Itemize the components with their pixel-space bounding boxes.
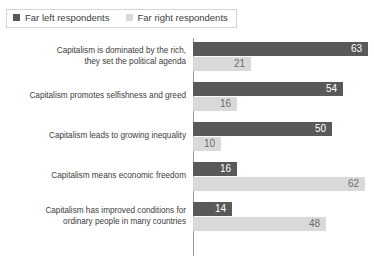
- bar[interactable]: [193, 217, 326, 231]
- bar-value-label: 54: [326, 82, 337, 96]
- category-label: Capitalism means economic freedom: [0, 171, 186, 182]
- legend-label: Far right respondents: [138, 13, 228, 23]
- bar-row: 50: [193, 122, 332, 136]
- bar[interactable]: [193, 202, 232, 216]
- legend-entry-far-left: Far left respondents: [13, 13, 110, 23]
- chart-legend: Far left respondents Far right responden…: [6, 9, 237, 28]
- legend-label: Far left respondents: [25, 13, 110, 23]
- bar-group: Capitalism leads to growing inequality50…: [0, 120, 374, 160]
- bar-value-label: 62: [348, 177, 359, 191]
- bar-row: 63: [193, 42, 368, 56]
- category-label: Capitalism has improved conditions foror…: [0, 206, 186, 227]
- bar-value-label: 50: [315, 122, 326, 136]
- bar-group: Capitalism means economic freedom1662: [0, 160, 374, 200]
- bar-value-label: 63: [351, 42, 362, 56]
- bar[interactable]: [193, 82, 343, 96]
- category-label: Capitalism leads to growing inequality: [0, 131, 186, 142]
- category-label-line: they set the political agenda: [0, 57, 186, 68]
- bar[interactable]: [193, 177, 365, 191]
- bar-row: 54: [193, 82, 343, 96]
- category-label: Capitalism is dominated by the rich,they…: [0, 46, 186, 67]
- bar-value-label: 14: [215, 202, 226, 216]
- bar-row: 10: [193, 137, 221, 151]
- category-label-line: Capitalism has improved conditions for: [0, 206, 186, 217]
- bar-row: 48: [193, 217, 326, 231]
- category-label-line: ordinary people in many countries: [0, 217, 186, 228]
- bar-value-label: 16: [220, 97, 231, 111]
- bar-row: 16: [193, 97, 237, 111]
- bar-row: 62: [193, 177, 365, 191]
- bar-row: 16: [193, 162, 237, 176]
- bar-value-label: 21: [234, 57, 245, 71]
- bar-chart-plot-area: Capitalism is dominated by the rich,they…: [0, 36, 374, 261]
- bar-value-label: 10: [204, 137, 215, 151]
- category-label: Capitalism promotes selfishness and gree…: [0, 91, 186, 102]
- category-label-line: Capitalism is dominated by the rich,: [0, 46, 186, 57]
- bar-group: Capitalism is dominated by the rich,they…: [0, 40, 374, 80]
- bar[interactable]: [193, 122, 332, 136]
- bar-group: Capitalism has improved conditions foror…: [0, 200, 374, 240]
- bar-group: Capitalism promotes selfishness and gree…: [0, 80, 374, 120]
- bar[interactable]: [193, 42, 368, 56]
- bar-row: 14: [193, 202, 232, 216]
- square-swatch-icon: [126, 14, 133, 21]
- legend-entry-far-right: Far right respondents: [126, 13, 228, 23]
- bar-row: 21: [193, 57, 251, 71]
- square-swatch-icon: [13, 14, 20, 21]
- bar-value-label: 16: [220, 162, 231, 176]
- category-label-line: Capitalism promotes selfishness and gree…: [0, 91, 186, 102]
- bar-value-label: 48: [309, 217, 320, 231]
- category-label-line: Capitalism means economic freedom: [0, 171, 186, 182]
- category-label-line: Capitalism leads to growing inequality: [0, 131, 186, 142]
